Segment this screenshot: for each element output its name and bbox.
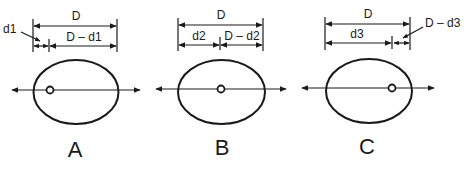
- panel-label: A: [68, 137, 83, 162]
- part1-label: d3: [350, 27, 364, 41]
- total-label: D: [217, 8, 226, 22]
- panel-a: D d1 D – d1 A: [3, 9, 140, 162]
- part2-label: D – d3: [425, 16, 461, 30]
- dimension-lines-a: D d1 D – d1: [3, 9, 117, 52]
- total-label: D: [72, 9, 81, 23]
- part2-label: D – d2: [224, 29, 260, 43]
- total-label: D: [364, 7, 373, 21]
- leader-line: [403, 27, 423, 38]
- panel-label: C: [359, 134, 375, 159]
- part1-label: d1: [3, 22, 17, 36]
- diagram-canvas: D d1 D – d1 A D d2 D – d2 B: [0, 0, 464, 175]
- leader-line: [21, 32, 40, 41]
- dimension-lines-b: D d2 D – d2: [178, 8, 263, 51]
- panel-c: D d3 D – d3 C: [302, 7, 461, 159]
- point-marker: [218, 86, 225, 93]
- point-marker: [47, 87, 54, 94]
- ellipse: [326, 59, 412, 123]
- part2-label: D – d1: [66, 30, 102, 44]
- panel-b: D d2 D – d2 B: [156, 8, 286, 160]
- dimension-lines-c: D d3 D – d3: [325, 7, 461, 50]
- point-marker: [389, 85, 396, 92]
- part1-label: d2: [192, 29, 206, 43]
- panel-label: B: [215, 135, 230, 160]
